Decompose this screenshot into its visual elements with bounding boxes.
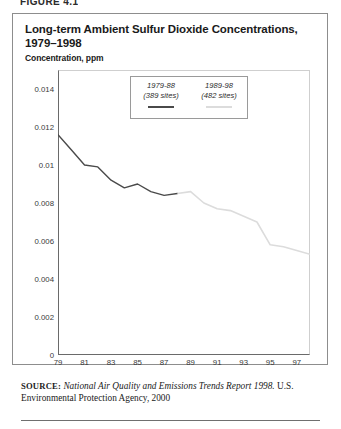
figure-root: FIGURE 4.1 Long-term Ambient Sulfur Diox… — [0, 0, 341, 429]
legend-item-1989-98: 1989-98 (482 sites) — [190, 81, 248, 108]
series-line-1979-88 — [58, 135, 177, 196]
bottom-divider — [21, 420, 320, 421]
legend-label-sites: (389 sites) — [132, 91, 190, 101]
x-axis-tick-label: 85 — [133, 358, 142, 367]
x-axis-tick-label: 83 — [107, 358, 116, 367]
chart-legend: 1979-88 (389 sites) 1989-98 (482 sites) — [130, 76, 248, 119]
source-title: National Air Quality and Emissions Trend… — [63, 381, 274, 391]
legend-swatch-icon — [148, 106, 174, 108]
x-axis-tick-label: 93 — [239, 358, 248, 367]
legend-item-1979-88: 1979-88 (389 sites) — [132, 81, 190, 108]
x-axis-tick-label: 95 — [266, 358, 275, 367]
series-bridge-segment — [177, 192, 190, 194]
x-axis-tick-label: 97 — [292, 358, 301, 367]
x-axis-tick-label: 79 — [54, 358, 63, 367]
x-axis-tick-label: 89 — [186, 358, 195, 367]
source-note: SOURCE: National Air Quality and Emissio… — [21, 380, 321, 404]
x-axis-tick-label: 91 — [213, 358, 222, 367]
legend-label-sites: (482 sites) — [190, 91, 248, 101]
legend-swatch-icon — [206, 106, 232, 108]
legend-label-period: 1979-88 — [132, 81, 190, 91]
x-axis-tick-label: 81 — [80, 358, 89, 367]
legend-label-period: 1989-98 — [190, 81, 248, 91]
x-axis-tick-label: 87 — [160, 358, 169, 367]
series-line-1989-98 — [191, 192, 310, 255]
source-label: SOURCE: — [21, 381, 61, 391]
